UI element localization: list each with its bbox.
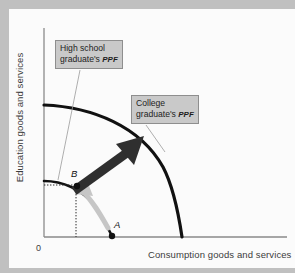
ppf-shift-arrow bbox=[74, 136, 144, 191]
ppf-figure: Education goods and services Consumption… bbox=[0, 0, 295, 273]
college-ppf-curve bbox=[44, 105, 182, 237]
callout-high-school-line2-prefix: graduate's bbox=[60, 54, 102, 64]
point-label-b: B bbox=[71, 168, 77, 179]
callout-high-school-ppf: High school graduate's PPF bbox=[55, 40, 123, 69]
origin-label: 0 bbox=[36, 243, 41, 253]
callout-high-school-ppf-abbrev: PPF bbox=[102, 55, 118, 64]
callout-college-line1: College bbox=[136, 98, 194, 109]
callout-high-school-line1: High school bbox=[60, 43, 118, 54]
callout-college-line2-prefix: graduate's bbox=[136, 109, 178, 119]
point-marker-a bbox=[109, 233, 115, 239]
callout-college-ppf-abbrev: PPF bbox=[178, 110, 194, 119]
point-label-a: A bbox=[114, 219, 120, 230]
callout-college-line2: graduate's PPF bbox=[136, 109, 194, 120]
y-axis-title: Education goods and services bbox=[14, 43, 25, 193]
callout-college-ppf: College graduate's PPF bbox=[131, 95, 199, 124]
callout-high-school-line2: graduate's PPF bbox=[60, 54, 118, 65]
ppf-chart-svg bbox=[0, 0, 295, 273]
x-axis-title: Consumption goods and services bbox=[148, 249, 291, 260]
point-marker-b bbox=[74, 183, 80, 189]
callout-connector-high-school bbox=[58, 70, 80, 180]
